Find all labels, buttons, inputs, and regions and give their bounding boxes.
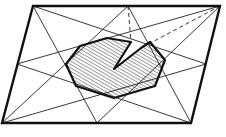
dashed-line-top-right [141,6,220,48]
dashed-lines [128,6,220,48]
diagram-svg [0,0,226,137]
parallelogram-octagon-diagram: Parallelogram with lines joining each ve… [0,0,226,137]
